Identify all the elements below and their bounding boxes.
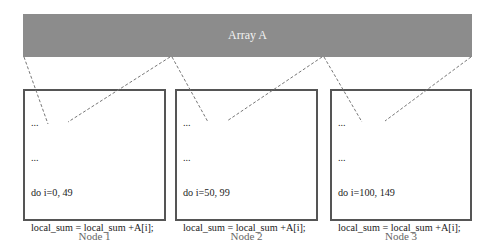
- node-1-code: ... ... do i=0, 49 local_sum = local_sum…: [31, 94, 164, 250]
- node-1-label: Node 1: [23, 230, 166, 242]
- code-line: do i=100, 149: [338, 187, 470, 199]
- code-line: do i=0, 49: [31, 187, 164, 199]
- node-2-box: ... ... do i=50, 99 local_sum = local_su…: [175, 89, 318, 221]
- node-3-code: ... ... do i=100, 149 local_sum = local_…: [338, 94, 470, 250]
- node-2-code: ... ... do i=50, 99 local_sum = local_su…: [183, 94, 316, 250]
- code-line: ...: [183, 152, 316, 164]
- array-a-bar: Array A: [23, 14, 472, 57]
- code-line: do i=50, 99: [183, 187, 316, 199]
- node-3-label: Node 3: [330, 230, 472, 242]
- code-line: ...: [338, 152, 470, 164]
- code-line: ...: [183, 117, 316, 129]
- node-3-box: ... ... do i=100, 149 local_sum = local_…: [330, 89, 472, 221]
- code-line: ...: [338, 117, 470, 129]
- node-2-label: Node 2: [175, 230, 318, 242]
- node-1-box: ... ... do i=0, 49 local_sum = local_sum…: [23, 89, 166, 221]
- array-a-label: Array A: [228, 28, 267, 43]
- code-line: ...: [31, 117, 164, 129]
- code-line: ...: [31, 152, 164, 164]
